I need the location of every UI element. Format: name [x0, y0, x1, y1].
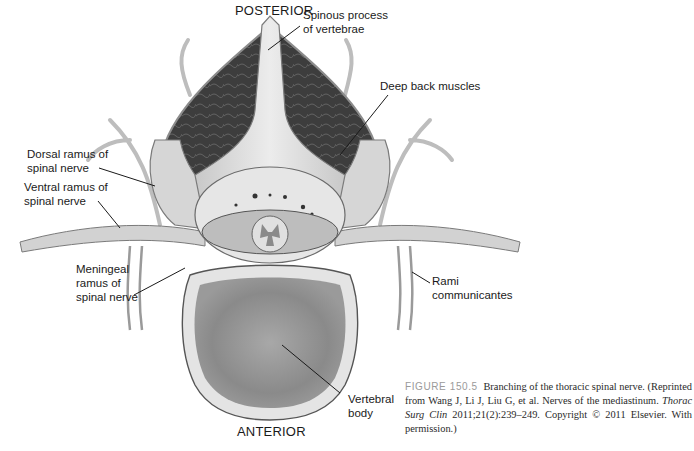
meningeal-ramus-label: Meningeal ramus of spinal nerve [76, 262, 138, 304]
ventral-ramus-label: Ventral ramus of spinal nerve [24, 180, 108, 208]
posterior-label: POSTERIOR [235, 4, 313, 18]
vertebral-body-cancellous [195, 278, 346, 409]
rami-communicantes-label: Rami communicantes [432, 274, 513, 302]
vertebral-body-label: Vertebral body [348, 392, 394, 420]
deep-back-muscles-label: Deep back muscles [380, 79, 480, 93]
caption-reference-suffix: 2011;21(2):239–249. Copyright © 2011 Els… [405, 409, 692, 434]
dorsal-ramus-label: Dorsal ramus of spinal nerve [27, 147, 108, 175]
figure-number: FIGURE 150.5 [405, 381, 478, 392]
anterior-label: ANTERIOR [237, 425, 306, 439]
spinous-process-label: Spinous process of vertebrae [303, 8, 388, 36]
caption-title: Branching of the thoracic spinal nerve. [483, 381, 645, 392]
figure-caption: FIGURE 150.5 Branching of the thoracic s… [405, 380, 692, 436]
spinal-nerve-figure: POSTERIOR ANTERIOR Spinous process of ve… [0, 0, 694, 451]
